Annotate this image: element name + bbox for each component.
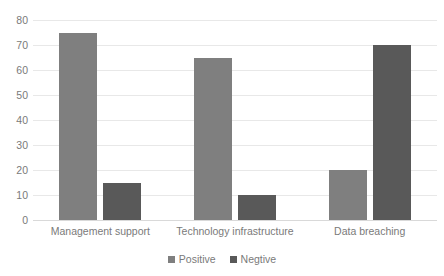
legend-swatch-icon bbox=[230, 256, 237, 263]
bar-positive-2 bbox=[329, 170, 367, 220]
x-axis-label: Data breaching bbox=[302, 226, 437, 237]
y-axis-tick-label: 40 bbox=[2, 115, 28, 126]
legend-swatch-icon bbox=[168, 256, 175, 263]
bar-negtive-0 bbox=[103, 183, 141, 221]
chart-legend: PositiveNegtive bbox=[0, 254, 444, 265]
y-axis-tick-label: 50 bbox=[2, 90, 28, 101]
plot-area bbox=[33, 20, 437, 220]
x-axis-label: Management support bbox=[33, 226, 168, 237]
y-axis-tick-label: 30 bbox=[2, 140, 28, 151]
gridline bbox=[33, 20, 437, 21]
x-axis-label: Technology infrastructure bbox=[168, 226, 303, 237]
legend-item-negtive[interactable]: Negtive bbox=[230, 254, 277, 265]
bar-positive-0 bbox=[59, 33, 97, 221]
y-axis-tick-label: 10 bbox=[2, 190, 28, 201]
legend-label: Positive bbox=[179, 254, 216, 265]
bar-negtive-2 bbox=[373, 45, 411, 220]
x-axis-category-labels: Management supportTechnology infrastruct… bbox=[33, 226, 437, 244]
y-axis-tick-label: 80 bbox=[2, 15, 28, 26]
y-axis-tick-label: 60 bbox=[2, 65, 28, 76]
y-axis-tick-label: 70 bbox=[2, 40, 28, 51]
axis-baseline bbox=[33, 220, 437, 221]
legend-label: Negtive bbox=[241, 254, 277, 265]
bar-positive-1 bbox=[194, 58, 232, 221]
bar-negtive-1 bbox=[238, 195, 276, 220]
bar-chart: 80706050403020100 Management supportTech… bbox=[0, 0, 444, 276]
legend-item-positive[interactable]: Positive bbox=[168, 254, 216, 265]
y-axis: 80706050403020100 bbox=[0, 20, 28, 220]
y-axis-tick-label: 0 bbox=[2, 215, 28, 226]
y-axis-tick-label: 20 bbox=[2, 165, 28, 176]
